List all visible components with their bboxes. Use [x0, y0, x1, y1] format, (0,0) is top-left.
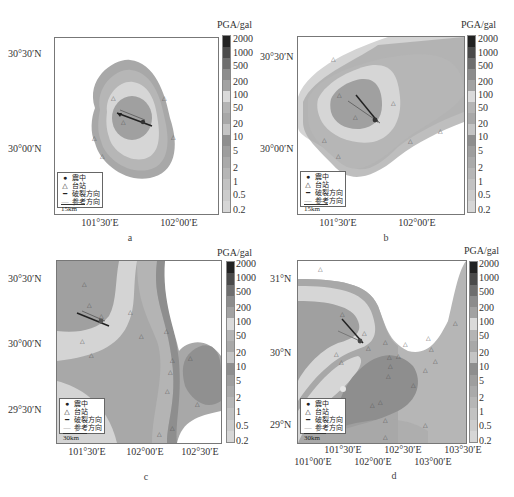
svg-text:△: △ [391, 100, 396, 106]
svg-text:△: △ [387, 354, 392, 360]
svg-text:△: △ [318, 266, 323, 272]
svg-text:△: △ [168, 369, 173, 375]
panel-caption: c [144, 471, 148, 482]
svg-text:△: △ [164, 328, 169, 334]
svg-text:△: △ [370, 402, 375, 408]
map-legend: ●震中 △台站 ━破裂方向 —参考方向 [59, 398, 105, 434]
svg-text:△: △ [426, 335, 431, 341]
x-tick-label: 102°00′E [126, 446, 163, 457]
svg-text:△: △ [170, 357, 175, 363]
svg-text:△: △ [188, 355, 193, 361]
x-tick-label: 103°30′E [444, 444, 481, 455]
svg-text:△: △ [80, 338, 85, 344]
x-tick-label: 101°30′E [324, 444, 361, 455]
svg-text:△: △ [353, 114, 358, 120]
x-tick-label: 102°00′E [160, 217, 197, 228]
rupture-direction-icon: ━ [60, 190, 70, 198]
svg-text:△: △ [383, 417, 388, 423]
station-icon: △ [303, 181, 313, 189]
svg-text:△: △ [378, 399, 383, 405]
map-legend: ●震中 △台站 ━破裂方向 —参考方向 [300, 171, 346, 207]
svg-text:△: △ [162, 95, 167, 101]
svg-text:△: △ [438, 128, 443, 134]
svg-text:△: △ [423, 422, 428, 428]
map-frame-b: △ △ △ △ △ △ △ △ ●震中 △台站 ━破裂方向 —参考方向 15km [297, 36, 465, 215]
svg-text:△: △ [388, 363, 393, 369]
map-frame-d: △ △ △ △ △ △ △ △ △ △ △ △ △ △ △ △ △ △ △ △ … [297, 260, 467, 444]
colorbar-title: PGA/gal [217, 19, 252, 30]
svg-text:△: △ [337, 92, 342, 98]
colorbar [226, 261, 235, 443]
svg-text:△: △ [386, 373, 391, 379]
x-tick-label: 101°30′E [81, 217, 118, 228]
station-icon: △ [62, 408, 72, 416]
x-tick-label: 103°00′E [414, 456, 451, 467]
colorbar [467, 35, 476, 213]
svg-text:△: △ [82, 281, 87, 287]
rupture-direction-icon: ━ [303, 416, 313, 424]
svg-text:△: △ [157, 431, 162, 437]
epicenter-icon: ● [303, 173, 313, 181]
svg-text:△: △ [403, 341, 408, 347]
x-tick-label: 101°00′E [294, 456, 331, 467]
reference-direction-icon: — [62, 424, 72, 432]
svg-text:△: △ [100, 153, 105, 159]
x-tick-label: 101°30′E [319, 217, 356, 228]
x-tick-label: 102°30′E [181, 446, 218, 457]
station-icon: △ [303, 408, 313, 416]
svg-text:△: △ [170, 425, 175, 431]
reference-direction-icon: — [303, 424, 313, 432]
svg-text:△: △ [433, 358, 438, 364]
svg-text:△: △ [139, 333, 144, 339]
colorbar-title: PGA/gal [464, 245, 499, 256]
scale-bar: 15km [304, 204, 328, 213]
svg-text:△: △ [383, 339, 388, 345]
svg-text:△: △ [339, 359, 344, 365]
x-tick-label: 101°30′E [68, 446, 105, 457]
svg-text:△: △ [171, 134, 176, 140]
svg-text:△: △ [429, 346, 434, 352]
scale-bar: 30km [304, 433, 326, 442]
epicenter-icon: ● [60, 174, 70, 182]
epicenter-icon: ● [303, 400, 313, 408]
panel-caption: a [128, 232, 132, 243]
epicenter-icon: ● [62, 400, 72, 408]
svg-text:△: △ [340, 311, 345, 317]
colorbar-title: PGA/gal [461, 19, 496, 30]
map-frame-c: △ △ △ △ △ △ △ △ △ △ △ △ △ △ △ ●震中 △台站 ━破… [56, 260, 222, 444]
svg-text:△: △ [336, 153, 341, 159]
svg-text:△: △ [121, 119, 126, 125]
map-legend: ●震中 △台站 ━破裂方向 —参考方向 [57, 172, 103, 208]
y-tick-label: 30°N [270, 347, 300, 358]
map-frame-a: △ △ △ △ △ △ ●震中 △台站 ━破裂方向 —参考方向 15km [54, 37, 219, 215]
scale-bar: 15km [61, 204, 85, 213]
svg-text:△: △ [366, 345, 371, 351]
svg-text:△: △ [453, 320, 458, 326]
map-legend: ●震中 △台站 ━破裂方向 —参考方向 [300, 398, 346, 434]
y-tick-label: 31°N [270, 273, 300, 284]
svg-text:△: △ [408, 138, 413, 144]
station-icon: △ [60, 182, 70, 190]
svg-text:△: △ [92, 135, 97, 141]
svg-text:△: △ [128, 309, 133, 315]
svg-text:△: △ [99, 313, 104, 319]
svg-text:△: △ [411, 382, 416, 388]
svg-text:△: △ [423, 367, 428, 373]
svg-text:△: △ [383, 434, 388, 440]
svg-text:△: △ [87, 302, 92, 308]
colorbar [222, 35, 231, 213]
svg-text:△: △ [331, 56, 336, 62]
rupture-direction-icon: ━ [62, 416, 72, 424]
panel-caption: d [392, 470, 397, 481]
x-tick-label: 102°30′E [384, 444, 421, 455]
colorbar-title: PGA/gal [217, 247, 252, 258]
svg-text:△: △ [334, 351, 339, 357]
svg-text:△: △ [111, 95, 116, 101]
svg-text:△: △ [165, 388, 170, 394]
panel-caption: b [384, 232, 389, 243]
rupture-direction-icon: ━ [303, 189, 313, 197]
svg-text:△: △ [396, 353, 401, 359]
svg-text:△: △ [195, 401, 200, 407]
svg-text:△: △ [322, 137, 327, 143]
y-tick-label: 29°N [270, 419, 300, 430]
